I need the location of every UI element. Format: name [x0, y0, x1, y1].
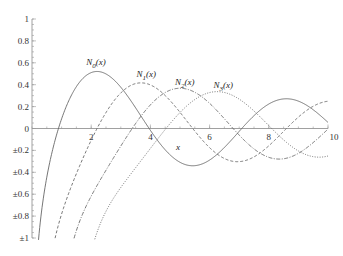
- x-axis-label: x: [175, 142, 180, 152]
- x-tick-label: 2: [89, 132, 94, 142]
- y-tick-label: 0.6: [18, 58, 30, 68]
- x-tick-label: 8: [267, 132, 272, 142]
- y-tick-label: 0.4: [18, 80, 30, 90]
- y-tick-label: ±0.8: [13, 211, 30, 221]
- y-tick-label: 1: [25, 14, 30, 24]
- axes: 10.80.60.40.20±0.2±0.4±0.6±0.8±1246810: [13, 14, 339, 243]
- x-tick-label: 10: [330, 132, 340, 142]
- y-tick-label: 0.8: [18, 36, 30, 46]
- y-tick-label: ±0.4: [13, 167, 30, 177]
- curve-label: N1(x): [135, 69, 156, 82]
- x-tick-label: 6: [207, 132, 212, 142]
- series-line-n1x: [55, 83, 328, 238]
- curve-label: N3(x): [212, 80, 233, 93]
- y-tick-label: 0: [25, 124, 30, 134]
- series-line-n2x: [74, 88, 328, 238]
- curve-label: N0(x): [85, 57, 106, 70]
- y-tick-label: 0.2: [18, 102, 29, 112]
- y-tick-label: ±0.6: [13, 189, 30, 199]
- series-line-n3x: [95, 92, 328, 240]
- y-tick-label: ±1: [20, 233, 29, 243]
- y-tick-label: ±0.2: [13, 145, 29, 155]
- curve-label: N2(x): [174, 77, 195, 90]
- bessel-chart: 10.80.60.40.20±0.2±0.4±0.6±0.8±1246810 N…: [0, 0, 343, 256]
- curves: [39, 71, 328, 239]
